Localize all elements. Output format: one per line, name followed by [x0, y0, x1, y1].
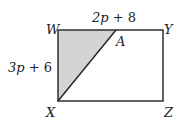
side-label-top-var: 2p	[91, 10, 109, 25]
side-label-left-rest: + 6	[25, 60, 52, 75]
vertex-label-w: W	[46, 22, 61, 37]
vertex-label-a: A	[115, 34, 125, 49]
side-label-left-var: 3p	[8, 60, 25, 75]
vertex-label-x: X	[45, 105, 56, 120]
side-label-top: 2p + 8	[91, 10, 136, 25]
side-label-top-rest: + 8	[109, 10, 136, 25]
vertex-label-z: Z	[163, 105, 174, 120]
side-label-left: 3p + 6	[8, 60, 52, 75]
vertex-label-y: Y	[164, 22, 174, 37]
geometry-diagram: W Y A X Z 2p + 8 3p + 6	[0, 0, 179, 125]
